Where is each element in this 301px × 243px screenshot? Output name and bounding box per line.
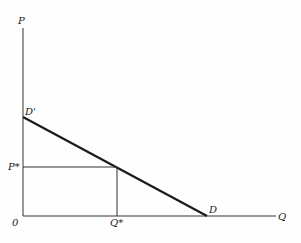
demand-end-label: D — [208, 204, 217, 215]
origin-label: 0 — [12, 217, 19, 228]
y-axis-label: P — [17, 15, 25, 26]
quantity-equilibrium-label: Q* — [110, 217, 123, 228]
price-equilibrium-label: P* — [7, 161, 20, 172]
demand-start-label: D' — [24, 106, 36, 117]
x-axis-label: Q — [278, 211, 286, 222]
diagram-canvas: P Q 0 D' D P* Q* — [0, 0, 301, 243]
demand-diagram: P Q 0 D' D P* Q* — [0, 0, 301, 243]
